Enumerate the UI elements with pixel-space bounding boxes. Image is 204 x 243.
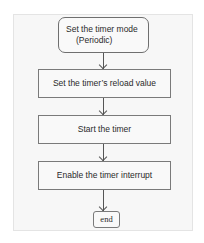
step-set-timer-mode-line1: Set the timer mode (66, 24, 138, 35)
step-start-timer: Start the timer (38, 115, 171, 144)
step-set-reload-value: Set the timer’s reload value (38, 69, 171, 98)
arrow-down-icon (103, 98, 104, 115)
arrow-down-icon (103, 144, 104, 161)
step-enable-interrupt-label: Enable the timer interrupt (57, 170, 152, 181)
step-end-label: end (100, 214, 112, 225)
step-set-reload-value-label: Set the timer’s reload value (53, 78, 156, 89)
arrow-down-icon (103, 53, 104, 69)
arrow-down-icon (103, 190, 104, 211)
step-start-timer-label: Start the timer (78, 124, 131, 135)
step-set-timer-mode-line2: (Periodic) (66, 35, 112, 46)
step-enable-interrupt: Enable the timer interrupt (38, 161, 171, 190)
step-set-timer-mode: Set the timer mode (Periodic) (58, 17, 149, 53)
step-end: end (93, 211, 120, 228)
